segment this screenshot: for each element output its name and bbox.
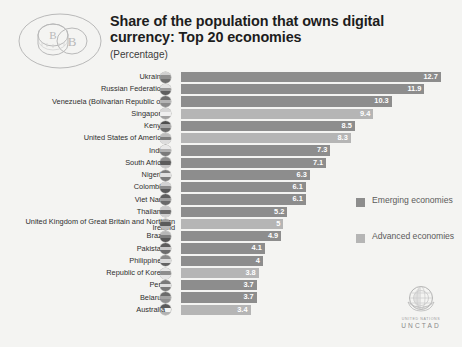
bar-track: 11.9: [181, 84, 451, 94]
chart-row: Nigeria6.3: [0, 169, 462, 181]
flag-united-kingdom-icon: [160, 219, 171, 230]
legend-swatch-advanced-icon: [356, 234, 365, 243]
flag-peru-icon: [160, 280, 171, 291]
legend-label-emerging: Emerging economies: [372, 195, 453, 205]
unctad-name: UNCTAD: [390, 322, 452, 329]
flag-viet-nam-icon: [160, 194, 171, 205]
chart-header: B B Share of the population that owns di…: [0, 0, 462, 72]
category-label: Republic of Korea: [15, 267, 165, 279]
flag-brazil-icon: [160, 231, 171, 242]
bar-emerging: 10.3: [181, 96, 392, 106]
bar-emerging: 6.3: [181, 170, 310, 180]
bar-value-label: 3.8: [245, 268, 255, 278]
flag-republic-of-korea-icon: [160, 268, 171, 279]
category-label: Brazil: [15, 230, 165, 242]
bar-track: 9.4: [181, 109, 451, 119]
bar-value-label: 7.1: [313, 158, 323, 168]
category-label: Singapore: [15, 108, 165, 120]
un-emblem-icon: [404, 282, 438, 316]
bar-emerging: 3.7: [181, 280, 257, 290]
category-label: Russian Federation: [15, 83, 165, 95]
bar-advanced: 3.8: [181, 268, 259, 278]
flag-india-icon: [160, 145, 171, 156]
bar-value-label: 10.3: [374, 96, 388, 106]
bar-track: 6.1: [181, 182, 451, 192]
category-label: Pakistan: [15, 243, 165, 255]
flag-australia-icon: [160, 304, 171, 315]
bar-value-label: 6.1: [292, 182, 302, 192]
digital-coin-icon: B B: [16, 11, 104, 71]
bar-track: 6.3: [181, 170, 451, 180]
chart-subtitle: (Percentage): [110, 49, 450, 60]
bar-value-label: 3.4: [237, 305, 247, 315]
bar-emerging: 7.3: [181, 145, 330, 155]
bar-track: 10.3: [181, 96, 451, 106]
flag-philippines-icon: [160, 255, 171, 266]
bar-value-label: 8.5: [342, 121, 352, 131]
bar-emerging: 4: [181, 256, 263, 266]
flag-ukraine-icon: [160, 72, 171, 83]
svg-text:B: B: [68, 34, 77, 49]
flag-kenya-icon: [160, 121, 171, 132]
category-label: Ukraine: [15, 71, 165, 83]
bar-advanced: 8.3: [181, 133, 351, 143]
category-label: Venezuela (Bolivarian Republic of): [15, 96, 165, 108]
chart-row: Republic of Korea3.8: [0, 267, 462, 279]
bar-value-label: 12.7: [423, 72, 437, 82]
bar-track: 12.7: [181, 72, 451, 82]
bar-track: 7.1: [181, 158, 451, 168]
bar-value-label: 7.3: [317, 145, 327, 155]
flag-pakistan-icon: [160, 243, 171, 254]
bar-advanced: 5: [181, 219, 283, 229]
category-label: Belarus: [15, 292, 165, 304]
category-label: Australia: [15, 304, 165, 316]
bar-value-label: 4.1: [252, 243, 262, 253]
bar-value-label: 4: [256, 256, 260, 266]
flag-russian-federation-icon: [160, 84, 171, 95]
flag-united-states-icon: [160, 133, 171, 144]
category-label: Kenya: [15, 120, 165, 132]
bar-emerging: 7.1: [181, 158, 326, 168]
chart-row: Venezuela (Bolivarian Republic of)10.3: [0, 96, 462, 108]
flag-colombia-icon: [160, 182, 171, 193]
category-label: South Africa: [15, 157, 165, 169]
chart-row: Ukraine12.7: [0, 71, 462, 83]
chart-row: Colombia6.1: [0, 181, 462, 193]
bar-advanced: 9.4: [181, 109, 373, 119]
chart-legend: Emerging economies Advanced economies: [356, 196, 462, 268]
chart-row: Kenya8.5: [0, 120, 462, 132]
bar-track: 8.3: [181, 133, 451, 143]
bar-emerging: 12.7: [181, 72, 441, 82]
category-label: Nigeria: [15, 169, 165, 181]
bar-emerging: 3.7: [181, 292, 257, 302]
un-organization-name: UNITED NATIONS: [390, 317, 452, 321]
bar-value-label: 6.1: [292, 194, 302, 204]
bar-emerging: 5.2: [181, 207, 287, 217]
chart-row: Russian Federation11.9: [0, 83, 462, 95]
legend-item-emerging: Emerging economies: [356, 196, 462, 218]
bar-emerging: 6.1: [181, 182, 306, 192]
category-label: Viet Nam: [15, 194, 165, 206]
category-label: Colombia: [15, 181, 165, 193]
bar-emerging: 4.9: [181, 231, 281, 241]
flag-south-africa-icon: [160, 157, 171, 168]
category-label: Peru: [15, 279, 165, 291]
title-block: Share of the population that owns digita…: [110, 14, 450, 60]
chart-row: India7.3: [0, 145, 462, 157]
category-label: India: [15, 145, 165, 157]
bar-value-label: 3.7: [243, 280, 253, 290]
flag-thailand-icon: [160, 206, 171, 217]
bar-value-label: 5: [276, 219, 280, 229]
chart-row: Singapore9.4: [0, 108, 462, 120]
legend-label-advanced: Advanced economies: [372, 231, 454, 241]
flag-venezuela-icon: [160, 96, 171, 107]
category-label: United States of America: [15, 132, 165, 144]
bar-emerging: 8.5: [181, 121, 355, 131]
bar-emerging: 11.9: [181, 84, 424, 94]
svg-text:B: B: [49, 29, 56, 41]
bar-value-label: 5.2: [274, 207, 284, 217]
flag-belarus-icon: [160, 292, 171, 303]
flag-singapore-icon: [160, 108, 171, 119]
bar-value-label: 9.4: [360, 109, 370, 119]
bar-value-label: 4.9: [268, 231, 278, 241]
